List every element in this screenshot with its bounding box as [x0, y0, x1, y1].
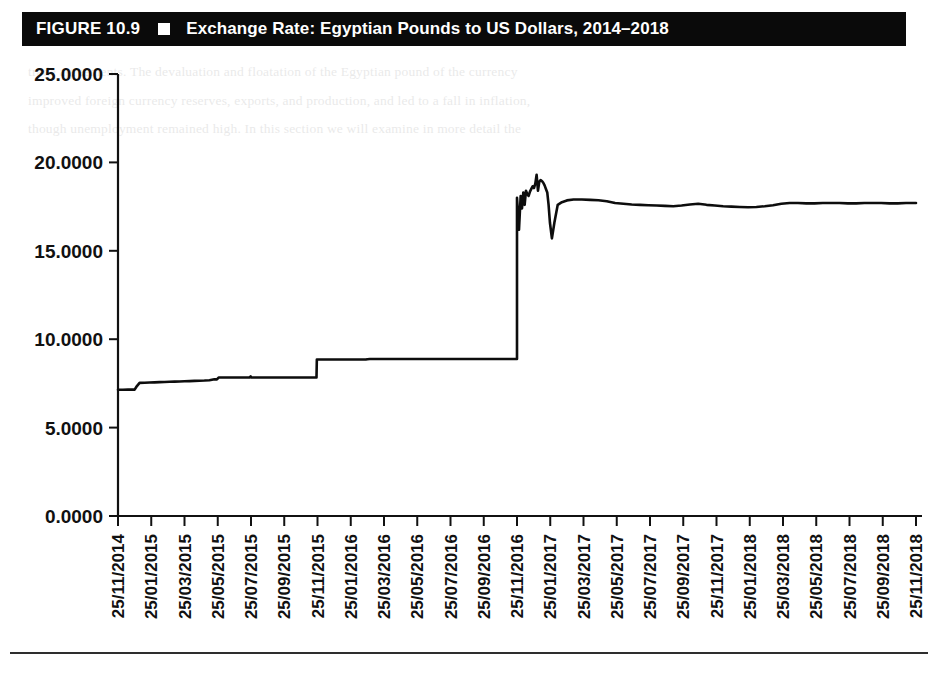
- exchange-rate-line-chart: 0.00005.000010.000015.000020.000025.0000…: [0, 46, 938, 646]
- figure-number: FIGURE 10.9: [36, 19, 140, 39]
- chart-svg: 0.00005.000010.000015.000020.000025.0000…: [0, 46, 938, 646]
- x-axis-tick-labels: 25/11/201425/01/201525/03/201525/05/2015…: [109, 533, 926, 619]
- x-tick-label: 25/11/2017: [708, 534, 727, 618]
- x-tick-label: 25/07/2017: [641, 534, 660, 619]
- x-tick-label: 25/05/2015: [209, 534, 228, 619]
- x-tick-label: 25/05/2016: [408, 534, 427, 619]
- exchange-rate-series-line: [118, 175, 916, 390]
- x-axis-tick-marks: [118, 516, 916, 526]
- x-tick-label: 25/03/2016: [375, 534, 394, 619]
- page-bottom-rule: [10, 652, 928, 654]
- x-tick-label: 25/07/2018: [841, 534, 860, 619]
- x-tick-label: 25/09/2015: [275, 534, 294, 619]
- x-tick-label: 25/05/2018: [807, 534, 826, 619]
- x-tick-label: 25/03/2018: [774, 534, 793, 619]
- y-tick-label: 5.0000: [45, 418, 103, 439]
- x-tick-label: 25/01/2018: [741, 534, 760, 619]
- x-tick-label: 25/03/2015: [176, 534, 195, 619]
- y-axis-tick-labels: 0.00005.000010.000015.000020.000025.0000: [34, 64, 103, 527]
- y-tick-label: 25.0000: [34, 64, 103, 85]
- y-tick-label: 10.0000: [34, 329, 103, 350]
- x-tick-label: 25/07/2016: [442, 534, 461, 619]
- x-tick-label: 25/03/2017: [575, 534, 594, 619]
- x-tick-label: 25/05/2017: [608, 534, 627, 619]
- y-tick-label: 0.0000: [45, 506, 103, 527]
- figure-caption: Exchange Rate: Egyptian Pounds to US Dol…: [186, 19, 669, 39]
- x-tick-label: 25/11/2014: [109, 533, 128, 618]
- x-tick-label: 25/01/2016: [342, 534, 361, 619]
- x-tick-label: 25/09/2016: [475, 534, 494, 619]
- x-tick-label: 25/11/2015: [309, 534, 328, 618]
- x-tick-label: 25/09/2018: [874, 534, 893, 619]
- y-axis-tick-marks: [109, 74, 118, 516]
- white-square-bullet-icon: [158, 23, 170, 35]
- x-tick-label: 25/11/2018: [907, 534, 926, 618]
- y-tick-label: 15.0000: [34, 241, 103, 262]
- x-tick-label: 25/07/2015: [242, 534, 261, 619]
- x-tick-label: 25/11/2016: [508, 534, 527, 618]
- x-tick-label: 25/01/2015: [142, 534, 161, 619]
- y-tick-label: 20.0000: [34, 152, 103, 173]
- x-tick-label: 25/09/2017: [674, 534, 693, 619]
- x-tick-label: 25/01/2017: [541, 534, 560, 619]
- figure-title-bar: FIGURE 10.9 Exchange Rate: Egyptian Poun…: [22, 12, 906, 46]
